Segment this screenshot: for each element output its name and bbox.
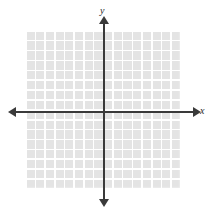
x-axis-line (14, 111, 196, 113)
coordinate-plane-figure: y x (0, 0, 211, 210)
y-axis-label: y (100, 6, 104, 16)
y-axis-top-arrow-icon (99, 16, 109, 24)
x-axis-label: x (200, 106, 204, 116)
y-axis-bottom-arrow-icon (99, 199, 109, 207)
x-axis-left-arrow-icon (8, 107, 16, 117)
y-axis-line (103, 23, 105, 202)
